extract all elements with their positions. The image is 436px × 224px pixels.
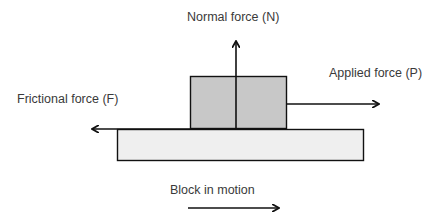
motion-label: Block in motion: [170, 184, 255, 197]
surface-slab: [118, 130, 364, 161]
block: [191, 77, 287, 129]
frictional-force-label: Frictional force (F): [17, 93, 118, 106]
applied-force-label: Applied force (P): [329, 67, 422, 80]
force-diagram: Normal force (N) Applied force (P) Frict…: [0, 0, 436, 224]
normal-force-label: Normal force (N): [187, 11, 279, 24]
